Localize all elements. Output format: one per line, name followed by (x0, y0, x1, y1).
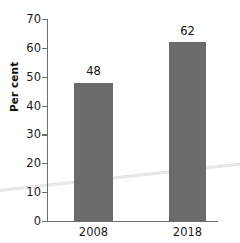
bar-value-label-2008: 48 (69, 66, 118, 78)
y-tick-label-30: 30 (11, 129, 41, 141)
y-tick-label-10: 10 (11, 187, 41, 199)
y-tick-label-20: 20 (11, 158, 41, 170)
x-axis-line (47, 221, 218, 222)
y-tick-60 (42, 48, 47, 49)
y-tick-50 (42, 77, 47, 78)
y-tick-40 (42, 106, 47, 107)
bar-value-label-2018: 62 (163, 26, 212, 38)
bar-2008 (74, 83, 113, 222)
y-tick-20 (42, 163, 47, 164)
y-tick-label-70: 70 (11, 14, 41, 26)
x-tick-label-2008: 2008 (69, 227, 118, 239)
y-tick-0 (42, 221, 47, 222)
bar-2018 (169, 42, 206, 221)
y-tick-label-60: 60 (11, 43, 41, 55)
y-tick-label-40: 40 (11, 101, 41, 113)
y-tick-label-0: 0 (11, 216, 41, 228)
y-tick-70 (42, 19, 47, 20)
bar-chart: Per cent 0 10 20 30 40 50 60 70 48 2008 … (0, 0, 240, 243)
y-tick-30 (42, 134, 47, 135)
y-tick-10 (42, 192, 47, 193)
y-axis-line (47, 19, 48, 222)
y-tick-label-50: 50 (11, 72, 41, 84)
x-tick-label-2018: 2018 (163, 227, 212, 239)
